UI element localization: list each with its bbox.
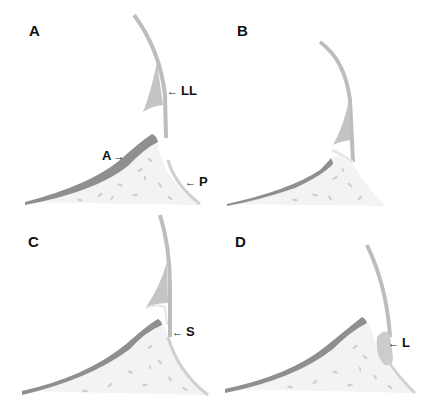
annotation-a: A: [102, 148, 124, 163]
panel-d: D L: [215, 207, 430, 413]
panel-d-illustration: [215, 207, 430, 413]
panel-letter: C: [28, 233, 39, 250]
panel-letter: A: [29, 22, 40, 39]
panel-a: A LL A P: [0, 0, 215, 206]
annotation-p: P: [185, 174, 208, 189]
panel-b: B: [215, 0, 430, 206]
annotation-s: S: [172, 324, 195, 339]
annotation-l: L: [388, 335, 410, 350]
panel-c: C S: [0, 207, 215, 413]
panel-letter: B: [237, 22, 248, 39]
annotation-ll: LL: [167, 83, 197, 98]
panel-letter: D: [235, 233, 246, 250]
